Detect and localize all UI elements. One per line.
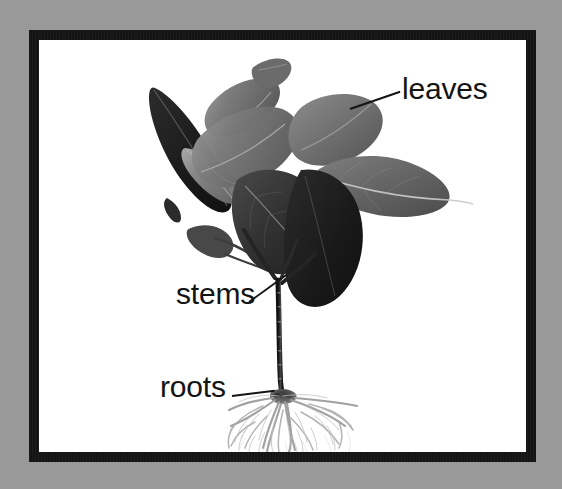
label-stems: stems xyxy=(176,279,255,309)
photo-frame-border: leaves stems roots xyxy=(29,30,536,462)
label-leaves: leaves xyxy=(402,74,488,104)
label-roots: roots xyxy=(160,372,226,402)
photo-plate: leaves stems roots xyxy=(39,40,526,452)
plant-parts-diagram: leaves stems roots xyxy=(0,0,562,489)
